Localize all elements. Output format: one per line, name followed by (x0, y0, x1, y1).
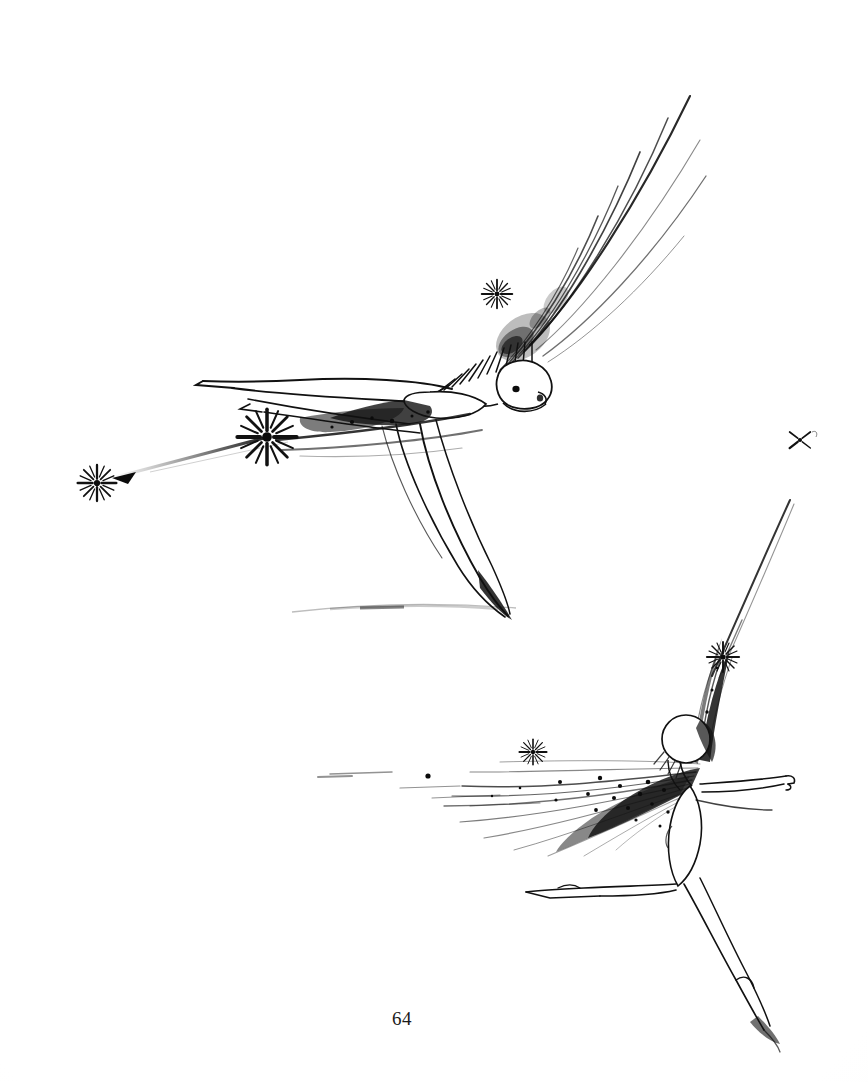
arm-lower-fairy (696, 776, 795, 810)
eye (512, 386, 519, 392)
page-number: 64 (0, 1008, 868, 1030)
ground-line-upper (292, 605, 516, 612)
torso-lower-fairy (666, 786, 702, 886)
sparkle-wand-lower (707, 642, 739, 672)
figure-flying-fairy-upper (78, 96, 706, 620)
sparkle-trail-left (78, 465, 116, 501)
folio-value: 64 (392, 1008, 412, 1030)
wand-lower-fairy (712, 500, 794, 678)
wing-base-shading-upper (487, 282, 573, 371)
sparkle-hand-upper (237, 409, 296, 465)
head-upper-fairy (496, 360, 551, 411)
figure-leaping-fairy-lower (318, 500, 795, 1052)
illustration-artwork (0, 0, 868, 1082)
book-page: 64 (0, 0, 868, 1082)
wing-plume-lower-fairy (318, 761, 700, 856)
sparkle-right-margin (790, 431, 817, 448)
sparkle-head-upper (482, 280, 512, 309)
sparkle-plume-lower (519, 739, 546, 765)
